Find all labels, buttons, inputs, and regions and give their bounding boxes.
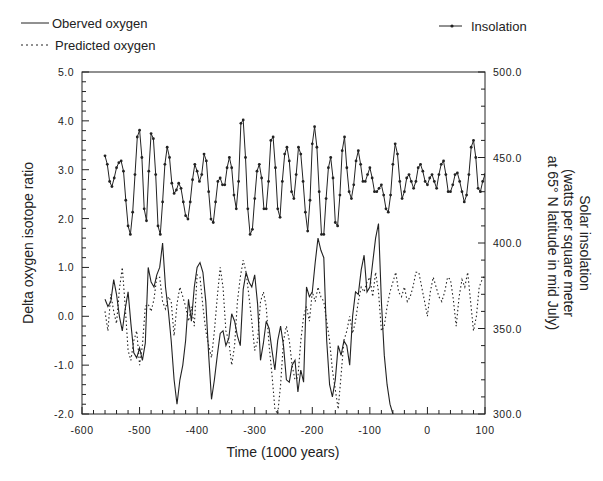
x-axis-title: Time (1000 years) xyxy=(226,444,339,460)
x-tick-label: -300 xyxy=(243,424,266,436)
legend: Oberved oxygen Predicted oxygen Insolati… xyxy=(21,16,527,53)
y-left-tick-label: 3.0 xyxy=(58,164,74,176)
y-right-tick-label: 400.0 xyxy=(493,237,522,249)
insolation-line xyxy=(105,120,485,234)
predicted-oxygen-line xyxy=(105,260,485,414)
y-left-tick-label: 0.0 xyxy=(58,310,74,322)
y-right-title-line-1: Solar insolation xyxy=(577,195,593,291)
legend-insolation-marker xyxy=(450,24,453,27)
legend-observed-label: Oberved oxygen xyxy=(52,16,147,31)
y-right-tick-label: 300.0 xyxy=(493,408,522,420)
y-left-axis-title: Delta oxygen isotope ratio xyxy=(20,162,36,324)
x-tick-label: -200 xyxy=(301,424,324,436)
y-right-title-line-2: (watts per square meter xyxy=(561,169,577,317)
chart-canvas: Oberved oxygen Predicted oxygen Insolati… xyxy=(0,0,603,481)
observed-oxygen-line xyxy=(105,224,393,415)
y-right-title-line-3: at 65° N latitude in mid July) xyxy=(545,156,561,330)
x-tick-label: 0 xyxy=(424,424,430,436)
y-right-tick-label: 450.0 xyxy=(493,152,522,164)
axis-ticks xyxy=(82,72,485,414)
legend-predicted-label: Predicted oxygen xyxy=(55,38,155,53)
plot-frame xyxy=(82,72,485,414)
x-tick-label: -500 xyxy=(128,424,151,436)
y-right-tick-label: 500.0 xyxy=(493,66,522,78)
y-left-tick-label: 4.0 xyxy=(58,115,74,127)
legend-insolation-label: Insolation xyxy=(471,19,527,34)
x-tick-label: -400 xyxy=(186,424,209,436)
y-left-tick-label: 2.0 xyxy=(58,213,74,225)
y-left-tick-label: -2.0 xyxy=(54,408,74,420)
y-right-axis-title: Solar insolation (watts per square meter… xyxy=(545,156,593,330)
y-left-tick-label: -1.0 xyxy=(54,359,74,371)
x-tick-label: 100 xyxy=(475,424,494,436)
x-tick-label: -600 xyxy=(70,424,93,436)
y-left-tick-label: 5.0 xyxy=(58,66,74,78)
y-right-tick-label: 350.0 xyxy=(493,323,522,335)
x-tick-label: -100 xyxy=(358,424,381,436)
y-left-tick-label: 1.0 xyxy=(58,261,74,273)
